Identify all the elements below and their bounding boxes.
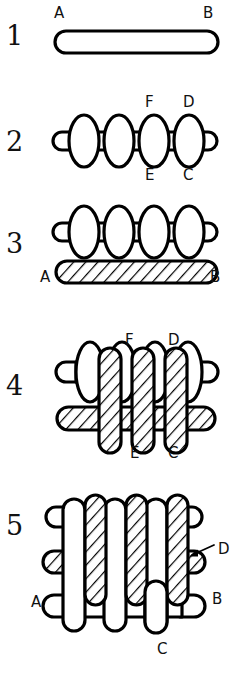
step-2-number: 2	[6, 128, 23, 155]
step-5-number: 5	[6, 512, 23, 539]
step-1-label-b: B	[203, 6, 213, 21]
loop-3	[139, 206, 169, 258]
step-2-label-e: E	[145, 168, 154, 183]
step-1-label-a: A	[54, 6, 64, 21]
weave-column-c	[145, 581, 167, 633]
step-1-number: 1	[6, 22, 23, 49]
strand-ab-hatched	[56, 261, 217, 283]
loop-4	[174, 115, 204, 167]
vertical-hatched-strand-1	[99, 348, 121, 453]
step-3-number: 3	[6, 230, 23, 257]
weave-column-hatched-3	[167, 495, 188, 605]
step-5-label-c: C	[157, 642, 167, 657]
step-2-drawing	[0, 95, 248, 195]
vertical-hatched-strand-2	[132, 348, 154, 453]
step-4: 4 F D E C	[0, 300, 248, 485]
step-3-label-b: B	[210, 270, 220, 285]
step-5-label-b: B	[212, 592, 222, 607]
step-5-label-a: A	[31, 595, 41, 610]
loop-1	[69, 115, 99, 167]
step-4-label-d: D	[168, 333, 180, 348]
strand-ab	[55, 31, 218, 53]
loop-2	[104, 206, 134, 258]
step-4-label-f: F	[125, 333, 134, 348]
weave-column-plain-1	[63, 499, 85, 631]
loop-1	[69, 206, 99, 258]
step-4-drawing	[0, 300, 248, 485]
loop-3	[139, 115, 169, 167]
step-4-number: 4	[6, 372, 23, 399]
step-3-label-a: A	[40, 270, 50, 285]
loop-4	[174, 206, 204, 258]
step-4-label-c: C	[168, 446, 178, 461]
step-2-label-f: F	[145, 95, 154, 110]
step-1: 1 A B	[0, 0, 248, 95]
step-2-label-d: D	[183, 95, 195, 110]
step-4-label-e: E	[130, 446, 139, 461]
weave-column-hatched-2	[126, 495, 147, 605]
step-5-label-d: D	[218, 542, 230, 557]
loop-2	[104, 115, 134, 167]
step-5-drawing	[0, 485, 248, 673]
vertical-hatched-strand-3	[165, 348, 187, 453]
step-2-label-c: C	[183, 168, 193, 183]
step-3: 3 A B	[0, 195, 248, 300]
step-2: 2 F D E C	[0, 95, 248, 195]
step-5: 5 D A B C	[0, 485, 248, 673]
weaving-diagram: 1 A B 2 F D E C 3 A B	[0, 0, 248, 673]
weave-column-hatched-1	[85, 495, 106, 605]
